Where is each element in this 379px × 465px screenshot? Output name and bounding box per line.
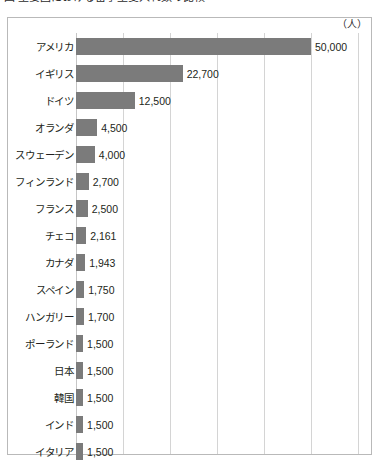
bar (76, 443, 83, 460)
bar-row: 日本1,500 (8, 357, 373, 384)
bar-row: カナダ1,943 (8, 249, 373, 276)
bar-track: 50,000 (76, 33, 373, 60)
bar (76, 38, 311, 55)
bar-category-label: ドイツ (8, 95, 76, 107)
bar-category-label: チェコ (8, 230, 76, 242)
bar (76, 92, 135, 109)
bar-value-label: 1,500 (87, 446, 113, 458)
bar-category-label: アメリカ (8, 41, 76, 53)
bar-category-label: スウェーデン (8, 149, 76, 161)
bar (76, 173, 89, 190)
bar-row: フィンランド2,700 (8, 168, 373, 195)
bar-value-label: 1,700 (88, 311, 114, 323)
bar-track: 12,500 (76, 87, 373, 114)
bar (76, 308, 84, 325)
bar-track: 4,500 (76, 114, 373, 141)
bar-value-label: 22,700 (187, 68, 219, 80)
bar-track: 1,943 (76, 249, 373, 276)
bar (76, 281, 84, 298)
bar-row: スウェーデン4,000 (8, 141, 373, 168)
bar-category-label: カナダ (8, 257, 76, 269)
bar-value-label: 1,943 (89, 257, 115, 269)
bar (76, 389, 83, 406)
bar-row: フランス2,500 (8, 195, 373, 222)
bar (76, 335, 83, 352)
bar-category-label: インド (8, 419, 76, 431)
bar-value-label: 1,500 (87, 365, 113, 377)
bar-row: スペイン1,750 (8, 276, 373, 303)
bar-value-label: 12,500 (139, 95, 171, 107)
bar-row: ドイツ12,500 (8, 87, 373, 114)
bar-row: チェコ2,161 (8, 222, 373, 249)
bar-track: 2,161 (76, 222, 373, 249)
bar-value-label: 2,700 (93, 176, 119, 188)
bar-category-label: ポーランド (8, 338, 76, 350)
bar-row: 韓国1,500 (8, 384, 373, 411)
bar-track: 1,500 (76, 384, 373, 411)
bar (76, 119, 97, 136)
bar-category-label: スペイン (8, 284, 76, 296)
bar (76, 65, 183, 82)
bar-rows: アメリカ50,000イギリス22,700ドイツ12,500オランダ4,500スウ… (8, 33, 373, 465)
bar-category-label: 韓国 (8, 392, 76, 404)
bar-category-label: ハンガリー (8, 311, 76, 323)
bar (76, 200, 88, 217)
bar-track: 1,700 (76, 303, 373, 330)
bar-category-label: 日本 (8, 365, 76, 377)
bar-row: イギリス22,700 (8, 60, 373, 87)
bar (76, 146, 95, 163)
bar-track: 2,500 (76, 195, 373, 222)
bar-track: 1,500 (76, 438, 373, 465)
bar-value-label: 2,161 (90, 230, 116, 242)
bar-category-label: イギリス (8, 68, 76, 80)
bar-track: 1,500 (76, 330, 373, 357)
bar-row: ハンガリー1,700 (8, 303, 373, 330)
bar-category-label: オランダ (8, 122, 76, 134)
bar-track: 1,500 (76, 411, 373, 438)
bar-value-label: 1,750 (88, 284, 114, 296)
bar-row: イタリア1,500 (8, 438, 373, 465)
bar-value-label: 50,000 (315, 41, 347, 53)
bar-value-label: 1,500 (87, 419, 113, 431)
bar-category-label: フランス (8, 203, 76, 215)
bar (76, 227, 86, 244)
bar-row: ポーランド1,500 (8, 330, 373, 357)
bar-value-label: 1,500 (87, 392, 113, 404)
chart-frame: （人） アメリカ50,000イギリス22,700ドイツ12,500オランダ4,5… (7, 17, 372, 455)
axis-unit-label: （人） (337, 19, 367, 31)
bar-track: 4,000 (76, 141, 373, 168)
chart-title: 図 主要国における留学生受入れ数の比較 (4, 0, 205, 4)
bar (76, 416, 83, 433)
bar-value-label: 1,500 (87, 338, 113, 350)
bar-track: 2,700 (76, 168, 373, 195)
bar (76, 254, 85, 271)
bar-value-label: 4,500 (101, 122, 127, 134)
bar-row: アメリカ50,000 (8, 33, 373, 60)
bar-category-label: イタリア (8, 446, 76, 458)
bar-track: 1,750 (76, 276, 373, 303)
bar-track: 22,700 (76, 60, 373, 87)
bar-value-label: 4,000 (99, 149, 125, 161)
bar-track: 1,500 (76, 357, 373, 384)
chart-title-strip: 図 主要国における留学生受入れ数の比較 (0, 0, 379, 13)
bar-row: インド1,500 (8, 411, 373, 438)
bar-value-label: 2,500 (92, 203, 118, 215)
bar (76, 362, 83, 379)
bar-row: オランダ4,500 (8, 114, 373, 141)
bar-category-label: フィンランド (8, 176, 76, 188)
